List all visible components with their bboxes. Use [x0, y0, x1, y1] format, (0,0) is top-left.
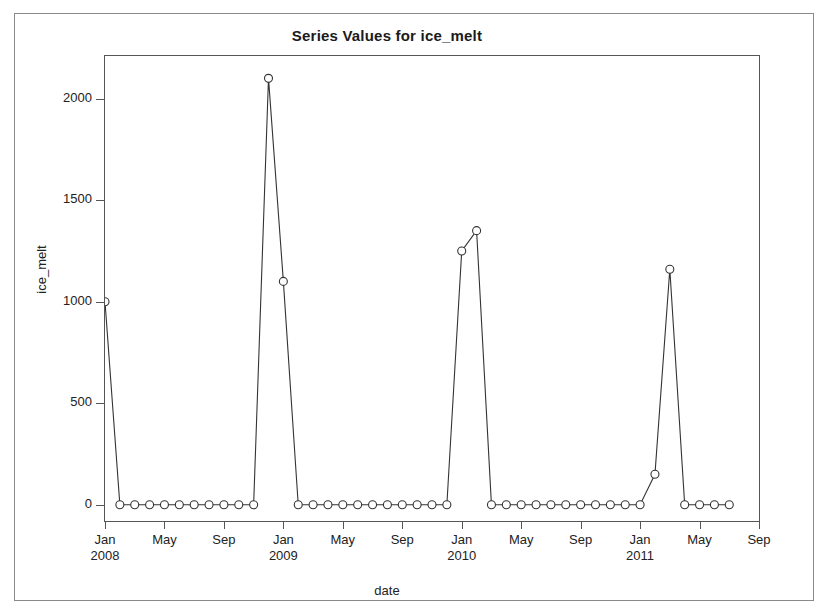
data-point-marker [369, 501, 377, 509]
data-point-marker [696, 501, 704, 509]
data-point-marker [606, 501, 614, 509]
x-tick-mark [402, 521, 403, 529]
data-point-marker [458, 247, 466, 255]
data-point-marker [383, 501, 391, 509]
y-tick-mark [96, 505, 104, 506]
data-point-marker [105, 298, 109, 306]
data-point-marker [324, 501, 332, 509]
data-point-marker [339, 501, 347, 509]
data-point-marker [413, 501, 421, 509]
x-tick-mark [224, 521, 225, 529]
x-tick-mark [343, 521, 344, 529]
data-point-marker [502, 501, 510, 509]
y-tick-label: 0 [40, 496, 92, 511]
chart-title: Series Values for ice_melt [0, 27, 774, 44]
data-point-marker [294, 501, 302, 509]
data-point-marker [146, 501, 154, 509]
data-point-marker [651, 470, 659, 478]
data-point-marker [265, 74, 273, 82]
data-point-marker [532, 501, 540, 509]
x-axis-label: date [0, 583, 774, 598]
x-tick-mark [581, 521, 582, 529]
series-line [105, 78, 729, 504]
data-point-marker [547, 501, 555, 509]
data-point-marker [131, 501, 139, 509]
x-tick-label: Sep [719, 532, 799, 547]
data-point-marker [666, 265, 674, 273]
y-tick-mark [96, 99, 104, 100]
data-point-marker [205, 501, 213, 509]
x-tick-mark [105, 521, 106, 529]
data-point-marker [681, 501, 689, 509]
x-tick-mark [164, 521, 165, 529]
data-point-marker [220, 501, 228, 509]
x-tick-mark [700, 521, 701, 529]
y-tick-mark [96, 403, 104, 404]
data-point-marker [175, 501, 183, 509]
y-tick-label: 500 [40, 394, 92, 409]
y-tick-label: 2000 [40, 90, 92, 105]
data-point-marker [279, 277, 287, 285]
y-tick-label: 1500 [40, 191, 92, 206]
x-tick-mark [759, 521, 760, 529]
y-tick-label: 1000 [40, 293, 92, 308]
x-tick-mark [521, 521, 522, 529]
y-tick-mark [96, 302, 104, 303]
data-point-marker [577, 501, 585, 509]
data-point-marker [710, 501, 718, 509]
data-point-marker [235, 501, 243, 509]
data-point-marker [443, 501, 451, 509]
x-tick-year: 2010 [422, 548, 502, 563]
x-tick-year: 2009 [243, 548, 323, 563]
x-tick-mark [283, 521, 284, 529]
data-point-marker [636, 501, 644, 509]
x-tick-year: 2008 [65, 548, 145, 563]
data-point-marker [562, 501, 570, 509]
data-point-marker [592, 501, 600, 509]
data-point-marker [473, 227, 481, 235]
data-point-marker [398, 501, 406, 509]
data-point-marker [160, 501, 168, 509]
plot-area [104, 55, 760, 522]
y-tick-mark [96, 200, 104, 201]
data-point-marker [487, 501, 495, 509]
data-point-marker [250, 501, 258, 509]
x-tick-year: 2011 [600, 548, 680, 563]
data-point-marker [116, 501, 124, 509]
data-point-marker [428, 501, 436, 509]
series-plot [105, 56, 759, 521]
x-tick-mark [640, 521, 641, 529]
data-point-marker [725, 501, 733, 509]
data-point-marker [190, 501, 198, 509]
data-point-marker [309, 501, 317, 509]
data-point-marker [354, 501, 362, 509]
x-tick-mark [462, 521, 463, 529]
data-point-marker [517, 501, 525, 509]
data-point-marker [621, 501, 629, 509]
